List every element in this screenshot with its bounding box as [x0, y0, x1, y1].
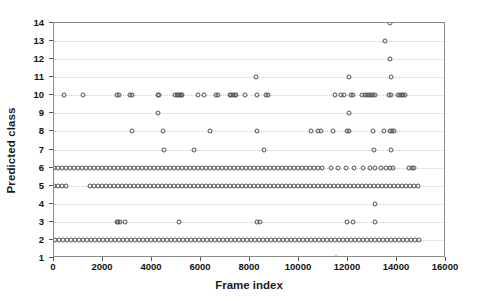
- data-point: [161, 129, 166, 134]
- data-point: [64, 183, 69, 188]
- x-tick-mark: [298, 257, 299, 261]
- data-point: [402, 93, 407, 98]
- x-tick-label: 10000: [285, 261, 311, 272]
- data-point: [243, 93, 248, 98]
- y-tick-mark: [49, 40, 53, 41]
- data-point: [319, 129, 324, 134]
- data-point: [352, 165, 357, 170]
- y-tick-mark: [49, 239, 53, 240]
- data-point: [180, 93, 185, 98]
- data-point: [372, 219, 377, 224]
- data-point: [254, 93, 259, 98]
- x-tick-mark: [102, 257, 103, 261]
- data-point: [116, 93, 121, 98]
- data-point: [412, 165, 417, 170]
- y-tick-mark: [49, 203, 53, 204]
- data-point: [333, 256, 338, 258]
- y-tick-mark: [49, 94, 53, 95]
- data-point: [257, 219, 262, 224]
- data-point: [350, 219, 355, 224]
- y-tick-label: 4: [14, 197, 44, 208]
- data-point: [254, 129, 259, 134]
- data-point: [192, 147, 197, 152]
- data-point: [130, 129, 135, 134]
- data-point: [320, 165, 325, 170]
- y-tick-label: 12: [14, 53, 44, 64]
- y-tick-label: 11: [14, 71, 44, 82]
- data-point: [391, 165, 396, 170]
- data-point: [389, 93, 394, 98]
- data-point: [62, 93, 67, 98]
- data-point: [391, 129, 396, 134]
- data-point: [332, 93, 337, 98]
- gridline-horizontal: [54, 77, 444, 78]
- data-point: [372, 165, 377, 170]
- x-tick-mark: [396, 257, 397, 261]
- y-tick-mark: [49, 167, 53, 168]
- data-point: [201, 93, 206, 98]
- data-point: [347, 75, 352, 80]
- gridline-horizontal: [54, 113, 444, 114]
- gridline-horizontal: [54, 95, 444, 96]
- y-tick-mark: [49, 185, 53, 186]
- y-tick-label: 2: [14, 233, 44, 244]
- data-point: [416, 237, 421, 242]
- data-point: [155, 111, 160, 116]
- x-tick-mark: [445, 257, 446, 261]
- y-tick-mark: [49, 130, 53, 131]
- y-tick-label: 3: [14, 215, 44, 226]
- y-tick-mark: [49, 221, 53, 222]
- data-point: [383, 39, 388, 44]
- x-tick-label: 6000: [189, 261, 210, 272]
- data-point: [342, 93, 347, 98]
- data-point: [389, 75, 394, 80]
- data-point: [336, 165, 341, 170]
- x-tick-label: 8000: [238, 261, 259, 272]
- data-point: [350, 93, 355, 98]
- data-point: [360, 165, 365, 170]
- y-tick-label: 13: [14, 35, 44, 46]
- data-point: [161, 147, 166, 152]
- gridline-horizontal: [54, 222, 444, 223]
- gridline-horizontal: [54, 150, 444, 151]
- y-tick-mark: [49, 76, 53, 77]
- x-tick-mark: [347, 257, 348, 261]
- x-tick-label: 4000: [140, 261, 161, 272]
- gridline-horizontal: [54, 204, 444, 205]
- scatter-chart: Predicted class Frame index 123456789101…: [0, 0, 481, 301]
- data-point: [372, 201, 377, 206]
- x-tick-label: 14000: [383, 261, 409, 272]
- x-tick-mark: [249, 257, 250, 261]
- data-point: [254, 75, 259, 80]
- data-point: [370, 129, 375, 134]
- y-tick-mark: [49, 58, 53, 59]
- data-point: [308, 129, 313, 134]
- data-point: [262, 147, 267, 152]
- y-tick-label: 1: [14, 252, 44, 263]
- data-point: [388, 57, 393, 62]
- data-point: [328, 165, 333, 170]
- data-point: [265, 93, 270, 98]
- data-point: [234, 93, 239, 98]
- data-point: [387, 22, 392, 26]
- y-tick-mark: [49, 112, 53, 113]
- x-tick-mark: [151, 257, 152, 261]
- data-point: [81, 93, 86, 98]
- data-point: [372, 147, 377, 152]
- y-tick-label: 6: [14, 161, 44, 172]
- y-tick-label: 14: [14, 17, 44, 28]
- data-point: [208, 129, 213, 134]
- plot-area: [53, 22, 445, 257]
- data-point: [347, 129, 352, 134]
- data-point: [177, 219, 182, 224]
- data-point: [382, 129, 387, 134]
- data-point: [196, 93, 201, 98]
- gridline-horizontal: [54, 59, 444, 60]
- data-point: [122, 219, 127, 224]
- data-point: [129, 93, 134, 98]
- data-point: [345, 219, 350, 224]
- x-tick-label: 0: [50, 261, 55, 272]
- x-tick-label: 2000: [91, 261, 112, 272]
- data-point: [331, 129, 336, 134]
- data-point: [372, 93, 377, 98]
